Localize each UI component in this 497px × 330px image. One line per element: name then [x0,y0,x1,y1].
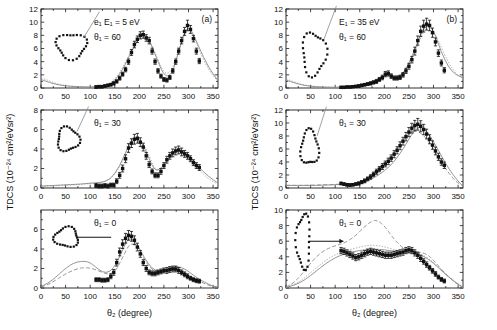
inset-point [309,161,311,163]
y-tick-label: 12 [274,5,283,14]
data-point [124,68,127,71]
inset-point [56,38,58,40]
inset-point [303,269,305,271]
panel-b-top-right: 024681012050100150200250300350E₁ = 35 eV… [274,5,465,101]
x-tick-label: 200 [378,292,392,301]
inset-point [302,140,304,142]
inset-point [322,39,324,41]
inset-point [80,52,82,54]
x-tick-label: 0 [39,192,44,201]
data-point [156,271,159,274]
inset-point [305,213,307,215]
data-point [407,130,410,133]
data-point [381,76,384,79]
data-point [153,60,156,63]
panel-a-top-left: 024681012050100150200250300350e₁ E₁ = 5 … [29,5,220,101]
data-point [177,269,180,272]
x-tick-label: 250 [157,192,171,201]
theory-curve-solid [41,29,218,87]
panel-tag: (b) [447,14,458,24]
data-point [186,24,189,27]
data-point [147,163,150,166]
inset-point [72,34,74,36]
data-point [366,82,369,85]
data-point [395,252,398,255]
data-point [133,43,136,46]
data-point [348,85,351,88]
data-point [159,170,162,173]
theory-curve-dotted [41,139,218,187]
data-point [351,254,354,257]
inset-point [317,36,319,38]
data-point [440,61,443,64]
inset-point [76,34,78,36]
inset-point [64,244,66,246]
data-point [186,275,189,278]
inset-point [58,147,60,149]
panel-annotation: E₁ = 35 eV [339,17,380,27]
x-tick-label: 0 [284,92,289,101]
inset-point [300,219,302,221]
data-point [372,81,375,84]
panel-annotation: θ₁ = 0 [94,218,116,228]
inset-point [62,244,64,246]
data-point [198,59,201,62]
x-tick-label: 350 [206,92,220,101]
data-point [401,250,404,253]
y-tick-label: 4 [34,58,39,67]
data-point [390,156,393,159]
data-point [136,38,139,41]
y-tick-label: 10 [29,18,38,27]
data-point [183,30,186,33]
x-tick-label: 100 [83,192,97,201]
data-point [180,150,183,153]
inset-point [69,246,71,248]
data-point [413,124,416,127]
inset-point [64,57,66,59]
data-point [363,83,366,86]
data-point [410,127,413,130]
data-point [437,155,440,158]
data-point [348,183,351,186]
x-tick-label: 200 [378,92,392,101]
x-tick-label: 300 [427,92,441,101]
data-point [121,167,124,170]
inset-point [66,245,68,247]
inset-point [54,234,56,236]
data-point [174,267,177,270]
y-tick-label: 2 [279,71,284,80]
data-point [198,166,201,169]
data-point [398,144,401,147]
inset-point [299,155,301,157]
y-tick-label: 2 [34,71,39,80]
data-point [378,252,381,255]
data-point [410,58,413,61]
y-tick-label: 8 [34,106,39,115]
data-point [150,170,153,173]
inset-point [79,142,81,144]
inset-point [320,65,322,67]
data-point [369,175,372,178]
inset-point [314,35,316,37]
data-point [387,72,390,75]
inset-point [318,147,320,149]
inset-point [55,41,57,43]
inset-point [56,243,58,245]
data-point [413,49,416,52]
data-point [431,31,434,34]
inset-point [322,62,324,64]
arrow-head-icon [339,239,343,244]
inset-point [295,232,297,234]
x-tick-label: 50 [61,92,70,101]
y-tick-label: 8 [279,222,284,231]
data-point [100,184,103,187]
inset-point [316,159,318,161]
inset-point [71,129,73,131]
inset-point [308,127,310,129]
inset-point [58,35,60,37]
x-tick-label: 50 [306,292,315,301]
measured-series [339,18,446,89]
x-tick-label: 100 [83,292,97,301]
x-tick-label: 0 [284,292,289,301]
inset-point [64,226,66,228]
